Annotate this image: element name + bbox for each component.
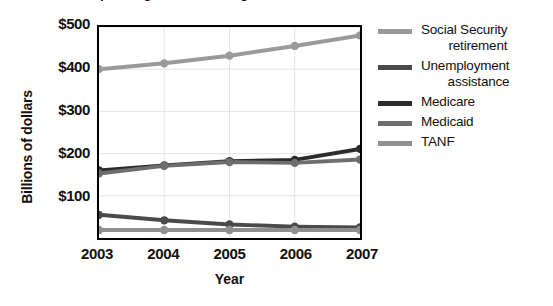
legend-label: TANF — [421, 134, 454, 150]
legend-swatch — [378, 121, 412, 126]
legend-label: Medicaid — [421, 114, 473, 130]
x-axis-tick-label: 2007 — [332, 245, 392, 262]
data-point — [160, 216, 168, 224]
legend-label-line2: assistance — [421, 74, 509, 90]
x-axis-title: Year — [97, 271, 362, 287]
legend-item: Medicaid — [378, 114, 553, 130]
legend-label-line1: TANF — [421, 134, 454, 150]
data-point — [160, 162, 168, 170]
data-point — [291, 226, 299, 234]
data-point — [291, 159, 299, 167]
data-point — [99, 65, 103, 73]
legend-swatch — [378, 29, 412, 34]
legend-item: Social Securityretirement — [378, 22, 553, 54]
y-axis-tick-label: $200 — [28, 144, 90, 161]
x-axis-tick-label: 2004 — [133, 245, 193, 262]
data-point — [99, 226, 103, 234]
data-point — [291, 42, 299, 50]
chart-legend: Social SecurityretirementUnemploymentass… — [378, 22, 553, 154]
legend-label: Medicare — [421, 94, 475, 110]
legend-swatch — [378, 101, 412, 106]
plot-area — [97, 25, 362, 240]
legend-swatch — [378, 65, 412, 70]
data-point — [160, 59, 168, 67]
legend-label-line1: Unemployment — [421, 58, 509, 74]
y-axis-tick-label: $300 — [28, 101, 90, 118]
data-point — [160, 226, 168, 234]
legend-label-line2: retirement — [421, 38, 507, 54]
legend-label: Social Securityretirement — [421, 22, 507, 54]
y-axis-tick-label: $500 — [28, 15, 90, 32]
x-axis-tick-labels: 20032004200520062007 — [97, 245, 362, 269]
data-point — [356, 31, 360, 39]
chart-figure: Federal Spending on Social Programs, 200… — [0, 0, 553, 306]
legend-item: Medicare — [378, 94, 553, 110]
x-axis-tick-label: 2003 — [67, 245, 127, 262]
data-point — [225, 158, 233, 166]
data-point — [356, 145, 360, 153]
y-axis-tick-label: $400 — [28, 58, 90, 75]
legend-label-line1: Medicare — [421, 94, 475, 110]
legend-item: TANF — [378, 134, 553, 150]
legend-label-line1: Medicaid — [421, 114, 473, 130]
y-axis-tick-label: $100 — [28, 187, 90, 204]
legend-item: Unemploymentassistance — [378, 58, 553, 90]
x-axis-tick-label: 2006 — [266, 245, 326, 262]
data-point — [225, 52, 233, 60]
data-point — [356, 155, 360, 163]
series-lines — [99, 27, 360, 238]
x-axis-tick-label: 2005 — [200, 245, 260, 262]
legend-label: Unemploymentassistance — [421, 58, 509, 90]
legend-swatch — [378, 141, 412, 146]
data-point — [225, 226, 233, 234]
legend-label-line1: Social Security — [421, 22, 507, 38]
data-point — [99, 211, 103, 219]
chart-title: Federal Spending on Social Programs, 200… — [40, 0, 380, 1]
